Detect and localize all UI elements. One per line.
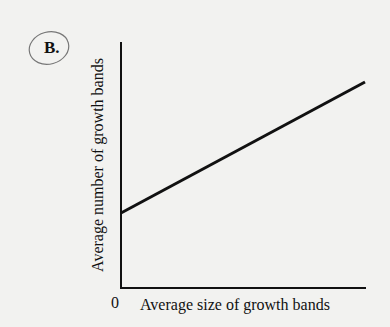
data-line xyxy=(121,82,365,213)
origin-label: 0 xyxy=(111,294,119,312)
panel-label: B. xyxy=(44,38,60,58)
y-axis-label: Average number of growth bands xyxy=(89,58,107,272)
x-axis-label: Average size of growth bands xyxy=(140,296,330,314)
